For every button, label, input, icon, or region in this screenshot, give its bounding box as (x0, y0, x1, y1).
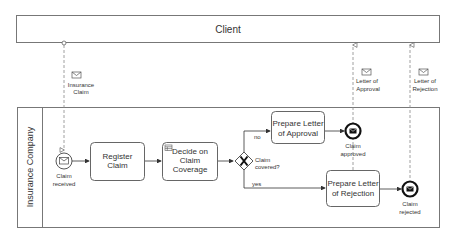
client-pool[interactable]: Client (17, 16, 440, 43)
envelope-filled-icon (407, 187, 414, 192)
message-label-letter-approval-2: Approval (356, 86, 380, 92)
task-prepare-letter-of-rejection[interactable]: Prepare Letter of Rejection (327, 171, 380, 207)
task-label: of Approval (278, 129, 318, 138)
envelope-icon (60, 158, 69, 165)
message-label-letter-rejection-2: Rejection (412, 86, 437, 92)
task-prepare-letter-of-approval[interactable]: Prepare Letter of Approval (272, 112, 325, 144)
start-event-claim-received[interactable] (56, 153, 72, 169)
envelope-filled-icon (350, 129, 357, 134)
end-event-label-2: approved (340, 151, 365, 157)
flow-label-yes: yes (252, 181, 261, 187)
end-event-label: Claim (345, 143, 360, 149)
task-label: Prepare Letter (327, 179, 378, 188)
message-label-letter-rejection: Letter of (414, 78, 436, 84)
task-label: of Rejection (332, 189, 374, 198)
task-label: Claim (107, 161, 128, 170)
client-pool-label: Client (215, 24, 241, 35)
envelope-icon (362, 69, 371, 75)
insurance-company-pool[interactable]: Insurance Company (18, 108, 440, 228)
task-label: Claim (180, 156, 201, 165)
task-label: Register (103, 152, 133, 161)
flow-label-no: no (254, 134, 261, 140)
end-event-claim-approved[interactable] (346, 124, 361, 139)
end-event-label: Claim (402, 201, 417, 207)
business-rule-table-icon (165, 145, 172, 151)
task-label: Decide on (172, 147, 208, 156)
message-label-letter-approval: Letter of (356, 78, 378, 84)
task-label: Prepare Letter (272, 119, 323, 128)
end-event-label-2: rejected (399, 209, 420, 215)
start-event-label: Claim (56, 173, 71, 179)
envelope-icon (72, 72, 81, 78)
insurance-pool-label: Insurance Company (25, 126, 35, 207)
end-event-claim-rejected[interactable] (403, 182, 418, 197)
message-label-insurance-claim-2: Claim (73, 89, 88, 95)
start-event-label-2: received (53, 181, 76, 187)
task-register-claim[interactable]: Register Claim (91, 143, 145, 181)
task-decide-claim-coverage[interactable]: Decide on Claim Coverage (163, 143, 218, 181)
task-label: Coverage (173, 165, 208, 174)
gateway-label: Claim (255, 157, 270, 163)
message-label-insurance-claim: Insurance (68, 82, 95, 88)
gateway-label-2: covered? (255, 164, 280, 170)
envelope-icon (419, 69, 428, 75)
